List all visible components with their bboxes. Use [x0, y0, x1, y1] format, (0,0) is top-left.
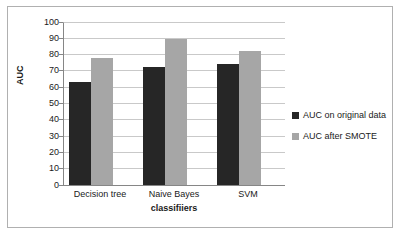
- x-axis-title: classifiiers: [63, 203, 285, 213]
- legend-item: AUC after SMOTE: [292, 131, 392, 141]
- y-axis-tick-label: 40: [49, 115, 59, 124]
- y-axis-tick-label: 90: [49, 34, 59, 43]
- bar: [239, 51, 261, 185]
- x-axis-tick-labels: Decision treeNaive BayesSVM: [63, 189, 285, 203]
- bar: [165, 39, 187, 185]
- bar: [143, 67, 165, 185]
- y-axis-tick-label: 100: [44, 18, 59, 27]
- y-axis-tick-label: 60: [49, 83, 59, 92]
- y-axis-tick-label: 20: [49, 148, 59, 157]
- chart-figure: AUC 1009080706050403020100 Decision tree…: [7, 6, 393, 228]
- y-axis-tick-label: 50: [49, 99, 59, 108]
- legend-item: AUC on original data: [292, 110, 392, 120]
- bar: [217, 64, 239, 185]
- legend-label: AUC after SMOTE: [303, 131, 377, 141]
- y-axis-title: AUC: [15, 66, 25, 86]
- x-axis-tick-label: SVM: [211, 189, 285, 200]
- legend-swatch-icon: [292, 133, 299, 140]
- bar: [69, 82, 91, 185]
- bar-group: [63, 22, 137, 185]
- y-axis-tick-label: 30: [49, 132, 59, 141]
- legend-swatch-icon: [292, 112, 299, 119]
- y-axis-tick-label: 10: [49, 164, 59, 173]
- x-axis-tick-label: Naive Bayes: [137, 189, 211, 200]
- chart-legend: AUC on original dataAUC after SMOTE: [292, 110, 392, 152]
- y-axis-tick-label: 80: [49, 50, 59, 59]
- bar-group: [137, 22, 211, 185]
- y-axis-tick-labels: 1009080706050403020100: [28, 22, 59, 185]
- legend-label: AUC on original data: [303, 110, 386, 120]
- x-axis-tick-label: Decision tree: [63, 189, 137, 200]
- bar-group: [211, 22, 285, 185]
- y-axis-tick-label: 70: [49, 66, 59, 75]
- plot-area: [63, 22, 285, 185]
- bar: [91, 58, 113, 185]
